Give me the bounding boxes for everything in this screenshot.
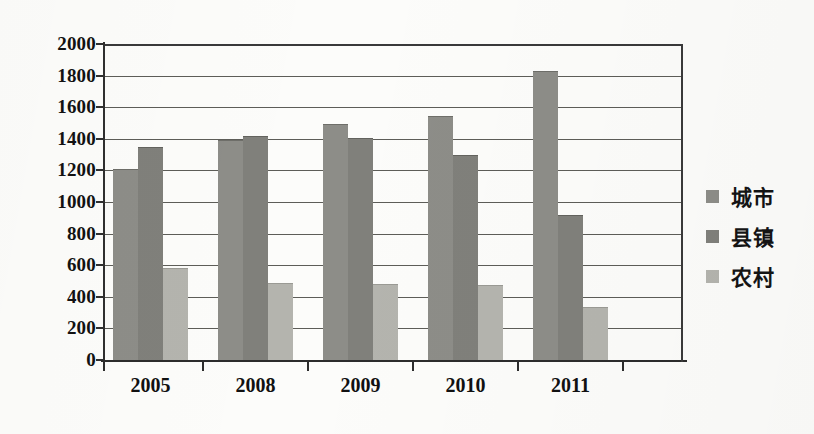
plot-right-border: [681, 44, 683, 362]
legend-label-农村: 农村: [731, 261, 775, 291]
y-tick-label-600: 600: [34, 254, 96, 276]
x-tick-mark-4: [622, 360, 624, 371]
bar-2011-农村: [583, 307, 608, 360]
gridline-1200: [103, 170, 683, 171]
y-axis-line: [103, 42, 105, 364]
x-tick-label-2009: 2009: [341, 374, 381, 397]
x-tick-mark-1: [307, 360, 309, 371]
legend: 城市县镇农村: [706, 176, 806, 296]
x-tick-mark-2: [412, 360, 414, 371]
bar-2010-县镇: [453, 155, 478, 360]
y-tick-label-1800: 1800: [34, 65, 96, 87]
legend-item-县镇[interactable]: 县镇: [706, 216, 806, 256]
x-axis-line: [101, 360, 687, 362]
x-tick-mark-origin: [103, 360, 105, 371]
y-tick-label-400: 400: [34, 286, 96, 308]
bar-chart-figure: 0200400600800100012001400160018002000 20…: [0, 0, 814, 434]
gridline-1400: [103, 139, 683, 140]
y-tick-label-1400: 1400: [34, 128, 96, 150]
bar-2010-城市: [428, 116, 453, 360]
y-tick-label-1000: 1000: [34, 191, 96, 213]
gridline-2000: [103, 44, 683, 46]
bar-2011-城市: [533, 71, 558, 360]
bar-2008-农村: [268, 283, 293, 360]
gridline-1000: [103, 202, 683, 203]
x-tick-label-2010: 2010: [446, 374, 486, 397]
y-tick-label-200: 200: [34, 317, 96, 339]
bar-2005-城市: [113, 169, 138, 360]
bar-2009-农村: [373, 284, 398, 360]
plot-area: [103, 44, 683, 360]
bar-2011-县镇: [558, 215, 583, 360]
x-tick-mark-0: [202, 360, 204, 371]
legend-item-城市[interactable]: 城市: [706, 176, 806, 216]
bar-2008-城市: [218, 140, 243, 360]
y-tick-label-1200: 1200: [34, 159, 96, 181]
legend-swatch-icon-农村: [706, 270, 719, 283]
gridline-1800: [103, 76, 683, 77]
legend-label-城市: 城市: [731, 181, 775, 211]
x-tick-mark-3: [517, 360, 519, 371]
x-tick-label-2008: 2008: [236, 374, 276, 397]
x-tick-label-2011: 2011: [551, 374, 590, 397]
y-tick-label-0: 0: [34, 349, 96, 371]
y-tick-label-2000: 2000: [34, 33, 96, 55]
bar-2005-县镇: [138, 147, 163, 360]
y-tick-label-1600: 1600: [34, 96, 96, 118]
gridline-600: [103, 265, 683, 266]
gridline-800: [103, 234, 683, 235]
legend-swatch-icon-城市: [706, 190, 719, 203]
legend-label-县镇: 县镇: [731, 221, 775, 251]
x-tick-label-2005: 2005: [131, 374, 171, 397]
bar-2009-城市: [323, 124, 348, 360]
bar-2008-县镇: [243, 136, 268, 360]
y-axis-tick-labels: 0200400600800100012001400160018002000: [20, 44, 96, 360]
y-tick-label-800: 800: [34, 223, 96, 245]
legend-swatch-icon-县镇: [706, 230, 719, 243]
bar-2005-农村: [163, 268, 188, 360]
legend-item-农村[interactable]: 农村: [706, 256, 806, 296]
bar-2010-农村: [478, 285, 503, 360]
bar-2009-县镇: [348, 138, 373, 360]
gridline-1600: [103, 107, 683, 108]
